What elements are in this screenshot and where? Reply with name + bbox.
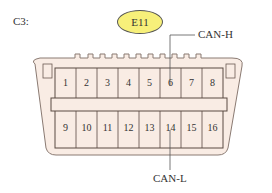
- pin-4: 4: [118, 77, 139, 88]
- pin-1: 1: [55, 77, 76, 88]
- pin-8: 8: [202, 77, 223, 88]
- pin-7: 7: [181, 77, 202, 88]
- can-l-label: CAN-L: [153, 172, 187, 184]
- pin-15: 15: [181, 122, 202, 133]
- pin-2: 2: [76, 77, 97, 88]
- pin-9: 9: [55, 122, 76, 133]
- pin-16: 16: [202, 122, 223, 133]
- pin-3: 3: [97, 77, 118, 88]
- pin-6: 6: [160, 77, 181, 88]
- pin-10: 10: [76, 122, 97, 133]
- pin-12: 12: [118, 122, 139, 133]
- pin-13: 13: [139, 122, 160, 133]
- can-h-label: CAN-H: [198, 28, 233, 40]
- pin-11: 11: [97, 122, 118, 133]
- pin-5: 5: [139, 77, 160, 88]
- pin-14: 14: [160, 122, 181, 133]
